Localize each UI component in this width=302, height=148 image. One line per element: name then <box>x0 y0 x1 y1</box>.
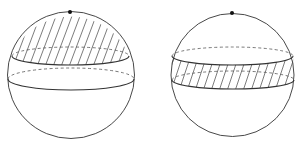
left-equator-back-arc <box>8 68 134 79</box>
left-sphere <box>0 0 158 139</box>
left-equator-front-arc <box>8 79 134 90</box>
right-pole-point <box>230 11 234 15</box>
left-cap-back-arc <box>12 47 129 56</box>
right-sphere <box>160 11 302 137</box>
right-upper-back-arc <box>172 47 293 56</box>
left-pole-point <box>68 10 72 14</box>
right-band-hatch <box>160 40 302 100</box>
figure <box>0 0 302 148</box>
right-upper-front-arc <box>172 56 293 65</box>
left-sphere-outline <box>8 12 135 139</box>
